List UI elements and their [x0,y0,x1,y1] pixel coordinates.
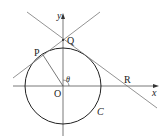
angle-theta-label: θ [66,75,70,84]
geometry-diagram: y x O P Q R θ C [0,0,166,139]
origin-label: O [54,88,61,99]
tangent-line-pq [13,12,100,78]
point-r-label: R [124,74,131,85]
y-axis [61,13,65,136]
radius-op [43,55,63,86]
x-axis-label: x [151,87,157,98]
y-axis-arrow-icon [61,13,65,19]
point-p-label: P [34,47,40,58]
x-axis [13,84,159,88]
point-q-dot [62,39,64,41]
point-q-label: Q [67,35,75,46]
circle-c-label: C [97,106,104,117]
y-axis-label: y [56,10,62,21]
